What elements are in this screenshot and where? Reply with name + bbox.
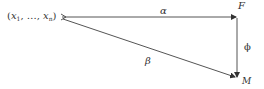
node-source-tuple: (x1, …, xn) (7, 11, 57, 22)
label-phi: ϕ (244, 42, 251, 52)
arrow-beta (63, 19, 235, 77)
node-F: F (238, 1, 245, 11)
node-M: M (242, 77, 251, 86)
label-beta: β (145, 56, 151, 66)
label-alpha: α (160, 6, 167, 16)
paren-close: ) (53, 10, 57, 21)
ellipsis-separator: , …, (20, 10, 43, 21)
commutative-diagram: (x1, …, xn) α F ϕ β M (0, 0, 264, 89)
